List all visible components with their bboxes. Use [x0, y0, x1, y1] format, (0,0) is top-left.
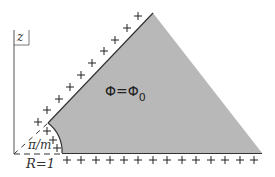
plus-icon [77, 156, 85, 164]
plus-icon [250, 156, 258, 164]
plus-icon [123, 24, 131, 32]
plus-icon [134, 12, 142, 20]
plus-icon [88, 59, 96, 67]
plus-icon [178, 156, 186, 164]
bottom-charges [63, 156, 258, 164]
plus-icon [111, 36, 119, 44]
plus-icon [63, 156, 71, 164]
plus-icon [236, 156, 244, 164]
plus-icon [66, 83, 74, 91]
plus-icon [120, 156, 128, 164]
plus-icon [34, 118, 42, 126]
shaded-region [48, 13, 262, 153]
angle-label: π/m [28, 139, 51, 151]
plus-icon [134, 156, 142, 164]
plus-icon [43, 106, 51, 114]
plus-icon [77, 71, 85, 79]
plus-icon [221, 156, 229, 164]
radius-label: R=1 [26, 157, 55, 170]
plus-icon [149, 156, 157, 164]
equals-sign: = [116, 83, 128, 99]
plus-icon [43, 127, 51, 135]
potential-label: Φ=Φ0 [105, 84, 146, 103]
plus-icon [100, 47, 108, 55]
potential-symbol: Φ [105, 83, 116, 99]
plus-icon [53, 144, 61, 152]
plus-icon [207, 156, 215, 164]
plus-icon [92, 156, 100, 164]
plus-icon [192, 156, 200, 164]
z-axis-label: z [17, 31, 23, 43]
potential-subscript: 0 [139, 91, 146, 104]
plus-icon [55, 95, 63, 103]
plus-icon [163, 156, 171, 164]
plus-icon [106, 156, 114, 164]
potential-value-symbol: Φ [128, 83, 139, 99]
cone-potential-diagram: z Φ=Φ0 π/m R=1 [0, 0, 275, 177]
